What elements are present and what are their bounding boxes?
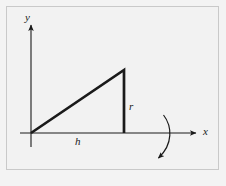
base-length-label: h	[75, 136, 81, 147]
right-triangle-shape	[31, 70, 124, 133]
figure-container: y x h r	[0, 0, 226, 186]
height-length-label: r	[129, 101, 133, 112]
y-axis-label: y	[25, 12, 30, 23]
rotation-arc-path	[159, 115, 170, 158]
x-axis-label: x	[203, 126, 208, 137]
figure-drawing-canvas	[0, 0, 226, 186]
